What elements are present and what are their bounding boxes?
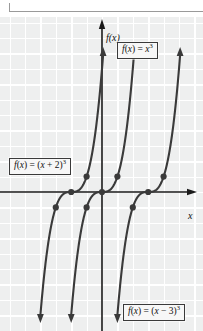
label-f-of-x-plus-2-cubed: f(x) = (x + 2)3 (9, 158, 71, 175)
curves-group (37, 47, 183, 323)
axes-group (0, 19, 197, 331)
top-rule-corner-stub (9, 3, 10, 12)
figure-page: f(x) x f(x) = x3 f(x) = (x + 2)3 f(x) = … (0, 0, 203, 331)
label-cubed-text: f(x) = x3 (122, 44, 153, 54)
x-axis-label: x (188, 210, 192, 221)
graph-plot-area: f(x) x f(x) = x3 f(x) = (x + 2)3 f(x) = … (0, 17, 203, 331)
label-plus2-text: f(x) = (x + 2)3 (14, 160, 66, 170)
top-rule-horizontal (9, 11, 203, 12)
label-f-of-x-minus-3-cubed: f(x) = (x − 3)3 (123, 304, 185, 321)
label-f-of-x-cubed: f(x) = x3 (117, 42, 158, 59)
label-minus3-text: f(x) = (x − 3)3 (128, 306, 180, 316)
